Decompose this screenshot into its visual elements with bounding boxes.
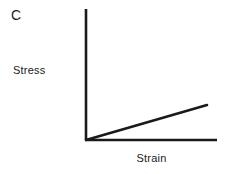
stress-strain-figure: C Stress Strain bbox=[0, 0, 225, 174]
data-line-linear-elastic bbox=[86, 105, 207, 140]
plot-area bbox=[0, 0, 225, 174]
